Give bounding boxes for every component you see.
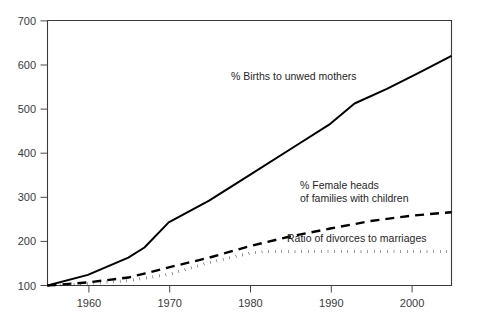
y-tick-label-500: 500 <box>18 103 36 115</box>
chart-background <box>0 0 477 326</box>
x-tick-label-1990: 1990 <box>319 297 343 309</box>
annotation-female-heads-line1: % Female heads <box>300 179 379 191</box>
x-tick-label-1960: 1960 <box>77 297 101 309</box>
y-tick-label-200: 200 <box>18 235 36 247</box>
y-tick-label-600: 600 <box>18 59 36 71</box>
annotation-divorces-to-marriages: Ratio of divorces to marriages <box>287 232 426 244</box>
x-tick-label-1980: 1980 <box>238 297 262 309</box>
x-tick-label-2000: 2000 <box>400 297 424 309</box>
y-tick-label-400: 400 <box>18 147 36 159</box>
annotation-births-unwed-mothers: % Births to unwed mothers <box>231 70 356 82</box>
x-tick-label-1970: 1970 <box>157 297 181 309</box>
y-tick-label-700: 700 <box>18 15 36 27</box>
line-chart: 100 200 300 400 500 600 700 1960 1970 19… <box>0 0 477 326</box>
annotation-female-heads-line2: of families with children <box>300 192 409 204</box>
y-tick-label-100: 100 <box>18 280 36 292</box>
y-tick-label-300: 300 <box>18 191 36 203</box>
chart-container: 100 200 300 400 500 600 700 1960 1970 19… <box>0 0 477 326</box>
